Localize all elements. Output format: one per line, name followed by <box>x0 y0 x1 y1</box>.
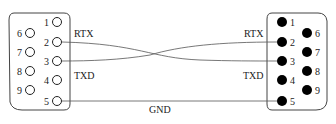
right-pin-number-1: 1 <box>290 17 295 28</box>
left-pin-number-2: 2 <box>44 37 49 48</box>
wire-left3-to-right2 <box>62 42 277 61</box>
right-pin-number-8: 8 <box>315 66 320 77</box>
left-pin-3 <box>53 57 62 66</box>
left-pin-number-5: 5 <box>44 96 49 107</box>
left-pin-number-9: 9 <box>17 85 22 96</box>
right-pin-number-3: 3 <box>290 56 295 67</box>
wiring-diagram: 1 2 3 4 5 6 7 8 9 1 2 3 4 5 6 7 8 9 RTX … <box>0 0 336 124</box>
right-pin-8 <box>302 66 312 76</box>
left-pin-9 <box>26 86 35 95</box>
left-pin-8 <box>26 67 35 76</box>
left-pin-1 <box>53 18 62 27</box>
right-pin-number-4: 4 <box>290 75 295 86</box>
right-pin-4 <box>277 75 287 85</box>
left-pin-number-3: 3 <box>44 56 49 67</box>
right-pin-6 <box>302 28 312 38</box>
left-pin-number-8: 8 <box>17 66 22 77</box>
right-pin-number-6: 6 <box>315 28 320 39</box>
right-pin-number-2: 2 <box>290 37 295 48</box>
right-pin-number-9: 9 <box>315 85 320 96</box>
left-pin-number-4: 4 <box>44 75 49 86</box>
right-pin-5 <box>277 96 287 106</box>
left-txd-label: TXD <box>74 70 95 81</box>
left-pin-number-7: 7 <box>17 47 22 58</box>
right-pin-number-5: 5 <box>290 96 295 107</box>
left-pin-number-6: 6 <box>17 28 22 39</box>
left-pin-7 <box>26 48 35 57</box>
right-pin-3 <box>277 56 287 66</box>
right-pin-9 <box>302 85 312 95</box>
left-pin-2 <box>53 38 62 47</box>
left-pin-5 <box>53 97 62 106</box>
right-pin-2 <box>277 37 287 47</box>
wire-left2-to-right3 <box>62 42 277 61</box>
right-pin-number-7: 7 <box>315 47 320 58</box>
left-pin-6 <box>26 29 35 38</box>
right-pin-1 <box>277 17 287 27</box>
left-pin-4 <box>53 76 62 85</box>
right-pin-7 <box>302 47 312 57</box>
left-pin-number-1: 1 <box>44 17 49 28</box>
left-rtx-label: RTX <box>74 28 94 39</box>
gnd-label: GND <box>149 104 171 115</box>
right-rtx-label: RTX <box>244 28 264 39</box>
right-txd-label: TXD <box>243 70 264 81</box>
